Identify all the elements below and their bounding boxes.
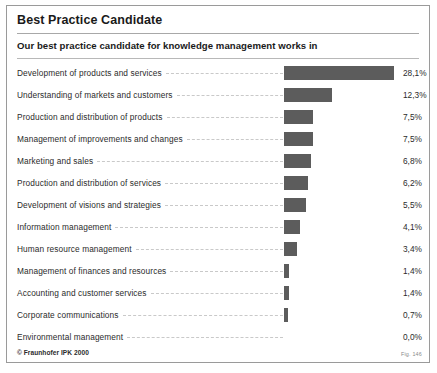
leader-line <box>115 227 283 228</box>
bar-value-label: 7,5% <box>403 112 422 122</box>
bar-category-label: Production and distribution of products <box>17 112 163 122</box>
bar <box>284 286 289 300</box>
bar-track <box>284 282 400 304</box>
bar-value-label: 6,2% <box>403 178 422 188</box>
bar <box>284 66 394 80</box>
bar <box>284 220 300 234</box>
leader-line <box>127 337 283 338</box>
bar-track <box>284 150 400 172</box>
leader-line <box>97 161 283 162</box>
bar-category-label: Production and distribution of services <box>17 178 161 188</box>
bar-category-label: Management of finances and resources <box>17 266 166 276</box>
bar-value-label: 4,1% <box>403 222 422 232</box>
bar-value-label: 0,7% <box>403 310 422 320</box>
bar-track <box>284 326 400 348</box>
bar-value-label: 5,5% <box>403 200 422 210</box>
bar-track <box>284 194 400 216</box>
chart-bar-row: Understanding of markets and customers12… <box>7 84 429 106</box>
leader-line <box>166 73 283 74</box>
chart-bar-row: Management of finances and resources1,4% <box>7 260 429 282</box>
chart-bar-row: Information management4,1% <box>7 216 429 238</box>
bar <box>284 176 308 190</box>
bar-value-label: 3,4% <box>403 244 422 254</box>
bar-chart-plot-area: Development of products and services28,1… <box>7 59 429 349</box>
figure-header: Best Practice Candidate Our best practic… <box>7 6 429 59</box>
bar-value-label: 12,3% <box>403 90 427 100</box>
bar-category-label: Corporate communications <box>17 310 119 320</box>
bar-value-label: 0,0% <box>403 332 422 342</box>
leader-line <box>167 117 284 118</box>
chart-bar-row: Management of improvements and changes7,… <box>7 128 429 150</box>
bar-category-label: Accounting and customer services <box>17 288 147 298</box>
figure-panel: Best Practice Candidate Our best practic… <box>6 5 430 363</box>
chart-bar-row: Environmental management0,0% <box>7 326 429 348</box>
chart-bar-row: Production and distribution of services6… <box>7 172 429 194</box>
leader-line <box>187 139 283 140</box>
bar <box>284 88 332 102</box>
chart-bar-row: Marketing and sales6,8% <box>7 150 429 172</box>
leader-line <box>177 95 283 96</box>
bar-value-label: 1,4% <box>403 288 422 298</box>
bar-track <box>284 304 400 326</box>
bar-value-label: 6,8% <box>403 156 422 166</box>
chart-bar-row: Development of visions and strategies5,5… <box>7 194 429 216</box>
chart-bar-row: Human resource management3,4% <box>7 238 429 260</box>
bar-category-label: Understanding of markets and customers <box>17 90 173 100</box>
chart-bar-row: Production and distribution of products7… <box>7 106 429 128</box>
bar-category-label: Information management <box>17 222 111 232</box>
bar <box>284 242 297 256</box>
bar-category-label: Environmental management <box>17 332 123 342</box>
bar-category-label: Human resource management <box>17 244 132 254</box>
bar-category-label: Development of products and services <box>17 68 162 78</box>
bar-value-label: 1,4% <box>403 266 422 276</box>
leader-line <box>151 293 283 294</box>
bar <box>284 198 306 212</box>
bar-track <box>284 172 400 194</box>
bar-category-label: Marketing and sales <box>17 156 93 166</box>
bar-track <box>284 216 400 238</box>
chart-bar-row: Accounting and customer services1,4% <box>7 282 429 304</box>
chart-bar-row: Development of products and services28,1… <box>7 62 429 84</box>
chart-bar-row: Corporate communications0,7% <box>7 304 429 326</box>
leader-line <box>165 205 283 206</box>
bar <box>284 110 313 124</box>
figure-number: Fig. 146 <box>401 351 422 357</box>
leader-line <box>123 315 283 316</box>
bar-value-label: 28,1% <box>403 68 427 78</box>
bar-value-label: 7,5% <box>403 134 422 144</box>
bar-track <box>284 62 400 84</box>
leader-line <box>170 271 283 272</box>
copyright-credit: © Fraunhofer IPK 2000 <box>17 349 89 356</box>
bar-track <box>284 128 400 150</box>
leader-line <box>165 183 283 184</box>
bar <box>284 264 289 278</box>
bar-category-label: Management of improvements and changes <box>17 134 183 144</box>
chart-subtitle: Our best practice candidate for knowledg… <box>17 34 419 52</box>
page-title: Best Practice Candidate <box>17 13 419 28</box>
bar-category-label: Development of visions and strategies <box>17 200 161 210</box>
bar <box>284 308 288 322</box>
bar <box>284 154 311 168</box>
bar-track <box>284 106 400 128</box>
bar <box>284 132 313 146</box>
leader-line <box>136 249 283 250</box>
bar-track <box>284 84 400 106</box>
bar-track <box>284 238 400 260</box>
bar-track <box>284 260 400 282</box>
